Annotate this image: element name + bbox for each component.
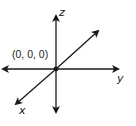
z-axis-label: z xyxy=(58,6,65,19)
x-axis-label: x xyxy=(18,104,26,117)
x-axis-negative xyxy=(56,31,98,69)
x-axis-positive xyxy=(16,69,56,104)
coordinate-axes-diagram: z y x (0, 0, 0) xyxy=(0,0,136,126)
origin-label: (0, 0, 0) xyxy=(12,48,48,60)
origin-point xyxy=(54,67,59,72)
y-axis-label: y xyxy=(116,72,124,85)
